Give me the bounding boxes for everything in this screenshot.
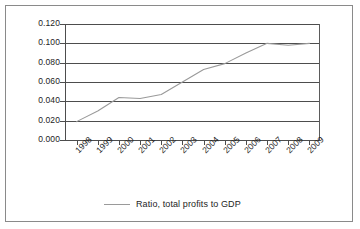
y-axis-tick-label: 0.000 [12, 135, 60, 144]
chart-figure: 0.1200.1000.0800.0600.0400.0200.000 1998… [0, 0, 360, 229]
data-series-layer [66, 24, 320, 140]
y-axis-tick [60, 63, 66, 64]
y-axis-tick-label: 0.080 [12, 58, 60, 67]
series-line-ratio-total-profits-to-gdp [77, 43, 310, 121]
y-axis-tick-label: 0.040 [12, 96, 60, 105]
y-axis-tick-label: 0.120 [12, 19, 60, 28]
y-axis-tick-label: 0.020 [12, 116, 60, 125]
y-axis-tick [60, 43, 66, 44]
y-axis-tick [60, 101, 66, 102]
chart-legend: Ratio, total profits to GDP [104, 198, 241, 210]
y-axis-tick-label: 0.100 [12, 38, 60, 47]
legend-line-swatch-icon [104, 204, 130, 205]
y-axis-tick [60, 140, 66, 141]
y-axis-tick [60, 24, 66, 25]
legend-label: Ratio, total profits to GDP [136, 199, 241, 209]
y-axis-tick [60, 121, 66, 122]
y-axis-tick [60, 82, 66, 83]
y-axis-labels: 0.1200.1000.0800.0600.0400.0200.000 [8, 0, 60, 229]
y-axis-tick-label: 0.060 [12, 77, 60, 86]
